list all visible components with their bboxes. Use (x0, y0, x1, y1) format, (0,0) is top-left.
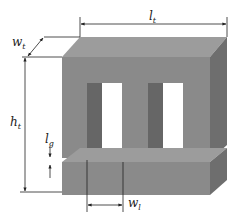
e-core (62, 37, 227, 160)
lt-dimension: lt (80, 9, 227, 37)
ht-dimension: ht (10, 58, 62, 192)
transformer-core-diagram: lt wt ht lg wl (0, 0, 240, 223)
wt-label: wt (12, 35, 26, 51)
lg-dimension: lg (45, 132, 54, 178)
lt-label: lt (149, 9, 157, 25)
i-bar-top-face (62, 148, 227, 162)
e-core-front-face (62, 57, 210, 160)
wl-label: wl (128, 196, 141, 212)
right-window (163, 83, 183, 148)
ht-label: ht (10, 115, 22, 131)
i-bar-front-face (62, 162, 210, 195)
e-core-right-face (210, 37, 227, 160)
e-core-top-face (62, 37, 227, 57)
lg-label: lg (45, 132, 54, 148)
left-window (102, 83, 122, 148)
